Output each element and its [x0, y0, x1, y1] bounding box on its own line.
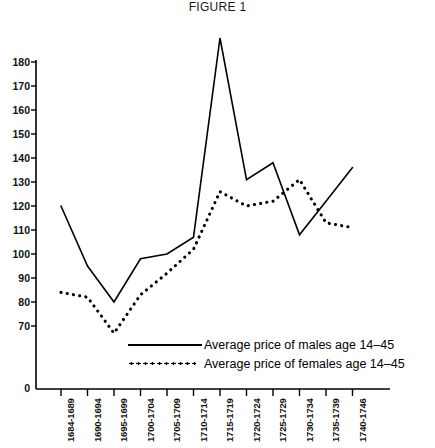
legend-label-females: Average price of females age 14–45 — [204, 357, 405, 371]
legend: Average price of males age 14–45 Average… — [128, 335, 428, 373]
legend-label-males: Average price of males age 14–45 — [204, 338, 394, 352]
figure-container: FIGURE 1 1801701601501401301201101009080… — [0, 0, 435, 448]
legend-line-dotted-icon — [128, 358, 202, 370]
series-line-males — [61, 38, 353, 302]
legend-line-solid-icon — [128, 339, 202, 351]
legend-item-males: Average price of males age 14–45 — [128, 335, 428, 354]
chart-canvas — [0, 0, 435, 448]
legend-item-females: Average price of females age 14–45 — [128, 354, 428, 373]
series-line-females — [61, 180, 353, 334]
data-series — [61, 38, 353, 333]
